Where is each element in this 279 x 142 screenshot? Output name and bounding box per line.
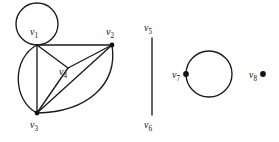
vertex-label-v1-subscript: 1 bbox=[34, 31, 38, 39]
vertex-label-v5-subscript: 5 bbox=[148, 27, 152, 35]
vertex-label-v7: v7 bbox=[172, 69, 180, 82]
vertex-dot-v2[interactable] bbox=[110, 43, 115, 48]
vertex-label-v5: v5 bbox=[144, 22, 152, 35]
vertex-label-v8-subscript: 8 bbox=[253, 74, 257, 82]
vertex-label-v3-subscript: 3 bbox=[34, 124, 38, 132]
component-2: v5 v6 bbox=[144, 22, 152, 132]
component-4: v8 bbox=[249, 69, 266, 82]
vertex-dot-v8[interactable] bbox=[260, 71, 266, 77]
vertex-dot-v7[interactable] bbox=[183, 71, 189, 77]
vertex-label-v2-subscript: 2 bbox=[110, 31, 114, 39]
edge-v1-v4 bbox=[37, 45, 68, 68]
component-3: v7 bbox=[172, 51, 232, 97]
self-loop-v7 bbox=[186, 51, 232, 97]
graph-canvas: v1 v2 v3 v4 v5 v6 bbox=[0, 0, 279, 142]
vertex-label-v4: v4 bbox=[59, 66, 67, 79]
vertex-label-v4-subscript: 4 bbox=[63, 71, 67, 79]
vertex-label-v8: v8 bbox=[249, 69, 257, 82]
vertex-label-v6: v6 bbox=[144, 119, 152, 132]
vertex-dot-v3[interactable] bbox=[35, 111, 40, 116]
edge-v1-v3-curved bbox=[18, 45, 37, 113]
vertex-label-v2: v2 bbox=[106, 26, 114, 39]
component-1: v1 v2 v3 v4 bbox=[16, 3, 114, 132]
graph-figure: v1 v2 v3 v4 v5 v6 bbox=[0, 0, 279, 142]
vertex-label-v1: v1 bbox=[30, 26, 38, 39]
vertex-label-v6-subscript: 6 bbox=[148, 124, 152, 132]
edge-v2-v3 bbox=[37, 45, 112, 113]
vertex-label-v3: v3 bbox=[30, 119, 38, 132]
vertex-label-v7-subscript: 7 bbox=[176, 74, 180, 82]
